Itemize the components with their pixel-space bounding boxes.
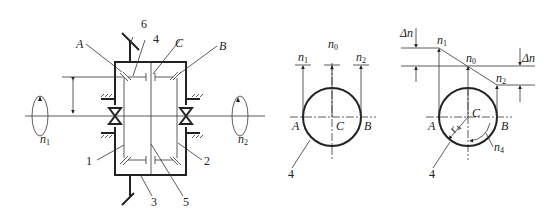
label-part-4: 4 — [288, 167, 294, 181]
label-n0: n0 — [466, 51, 476, 66]
leader-lines — [86, 37, 217, 196]
label-n2: n2 — [496, 71, 506, 86]
label-n2: n2 — [238, 132, 248, 147]
label-A: A — [427, 119, 436, 133]
mechanism-panel: A 6 4 C B 1 2 3 5 n1 n2 — [25, 17, 265, 209]
differential-diagram: A 6 4 C B 1 2 3 5 n1 n2 n1 n0 n2 A C B 4 — [0, 0, 554, 216]
carrier-frame — [115, 33, 186, 205]
label-n4: n4 — [494, 140, 504, 155]
label-B: B — [501, 119, 509, 133]
label-r4: r4 — [446, 120, 463, 136]
label-n1: n1 — [437, 33, 447, 48]
label-n0: n0 — [328, 37, 338, 52]
label-delta-n-left: Δn — [399, 26, 413, 40]
top-gear-teeth — [120, 72, 181, 81]
velocity-equal-panel: n1 n0 n2 A C B 4 — [288, 37, 376, 181]
label-B: B — [364, 119, 372, 133]
label-part-4: 4 — [429, 167, 435, 181]
label-C: C — [175, 36, 184, 50]
label-n2: n2 — [356, 50, 366, 65]
label-part-4: 4 — [153, 32, 159, 46]
velocity-differential-panel: Δn Δn n1 n0 n2 A C B r4 n4 4 — [399, 26, 535, 181]
label-n1: n1 — [298, 50, 308, 65]
label-C: C — [472, 106, 481, 120]
label-part-1: 1 — [86, 154, 92, 168]
label-C: C — [336, 119, 345, 133]
label-B: B — [219, 39, 227, 53]
label-delta-n-right: Δn — [521, 51, 535, 65]
bottom-gear-teeth — [120, 156, 181, 165]
label-A: A — [75, 37, 84, 51]
label-A: A — [291, 119, 300, 133]
label-n1: n1 — [40, 132, 50, 147]
label-part-6: 6 — [141, 17, 147, 31]
label-part-3: 3 — [151, 195, 157, 209]
label-part-5: 5 — [183, 195, 189, 209]
label-part-2: 2 — [204, 154, 210, 168]
